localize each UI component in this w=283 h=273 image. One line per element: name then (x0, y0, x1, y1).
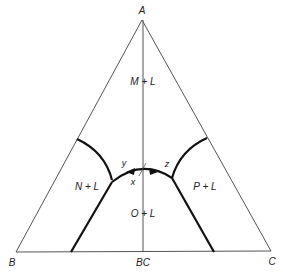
left-boundary-line (71, 182, 112, 252)
vertex-b-label: B (9, 257, 16, 268)
ternary-diagram: A B C BC M + L N + L P + L O + L y z x (0, 0, 283, 273)
edge-ac (142, 20, 271, 251)
left-boundary-arc (77, 139, 112, 180)
point-y-label: y (121, 158, 127, 168)
arrow-left-icon (126, 168, 135, 175)
point-x-label: x (130, 177, 136, 187)
field-o-l-label: O + L (131, 208, 156, 219)
field-p-l-label: P + L (193, 181, 216, 192)
vertex-bc-label: BC (136, 257, 151, 268)
field-m-l-label: M + L (130, 76, 155, 87)
point-z-label: z (164, 159, 170, 169)
edge-ab (16, 20, 142, 252)
field-n-l-label: N + L (75, 181, 99, 192)
right-boundary-arc (172, 138, 207, 178)
vertex-c-label: C (268, 256, 276, 267)
vertex-a-label: A (138, 5, 146, 16)
